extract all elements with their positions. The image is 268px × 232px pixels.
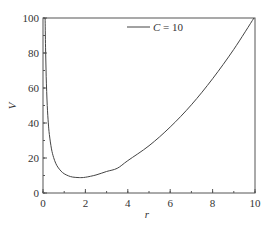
x-tick-label: 6	[167, 197, 173, 209]
y-axis-label: V	[6, 101, 18, 109]
x-tick-label: 0	[40, 197, 46, 209]
series-line-c10	[45, 18, 254, 178]
x-tick-labels: 0246810	[40, 197, 261, 209]
x-tick-label: 4	[125, 197, 131, 209]
x-tick-label: 10	[250, 197, 262, 209]
legend-label-value: = 10	[160, 21, 183, 33]
y-tick-label: 60	[28, 82, 40, 94]
legend: C = 10	[127, 21, 184, 33]
y-tick-label: 80	[28, 47, 40, 59]
y-tick-label: 40	[28, 117, 40, 129]
x-tick-label: 8	[210, 197, 216, 209]
y-tick-labels: 020406080100	[23, 12, 40, 199]
y-tick-label: 0	[34, 187, 40, 199]
x-tick-label: 2	[83, 197, 89, 209]
chart-canvas: 0246810 020406080100 C = 10 r V	[0, 0, 268, 232]
legend-label: C = 10	[153, 21, 184, 33]
y-tick-label: 20	[28, 152, 40, 164]
minor-ticks	[43, 18, 255, 193]
x-axis-label: r	[145, 208, 150, 220]
major-ticks	[43, 18, 255, 193]
plot-frame	[43, 18, 255, 193]
y-tick-label: 100	[23, 12, 40, 24]
